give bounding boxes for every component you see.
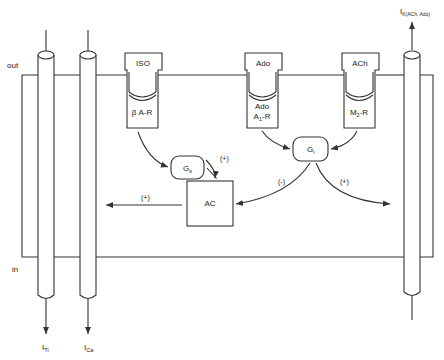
beta-adrenergic-receptor: ISO β A-R (125, 53, 162, 128)
gs-protein: Gs (171, 156, 204, 179)
ica-current-label: ICa (84, 343, 94, 353)
beta-receptor-label: β A-R (132, 108, 153, 117)
gi-to-kach-effect: (+) (340, 178, 349, 186)
iso-ligand-label: ISO (136, 59, 150, 68)
ikach-current-label: IK(ACh, Ado) (400, 7, 430, 17)
ica-channel: ICa (80, 30, 96, 353)
muscarinic-m2-receptor: ACh M2-R (342, 53, 379, 128)
gi-to-ac-effect: (-) (278, 178, 285, 186)
inside-label: in (12, 265, 18, 274)
adenosine-a1-receptor: Ado Ado A1-R (245, 53, 282, 128)
ito-channel: ITi (38, 30, 54, 353)
ado-ligand-label: Ado (256, 59, 271, 68)
ac-label: AC (204, 199, 215, 208)
a1-receptor-line1: Ado (255, 102, 270, 111)
gs-to-ac-effect: (+) (220, 155, 229, 163)
signaling-diagram: out in ISO β A-R Ado Ado A1-R ACh M2-R (0, 0, 444, 360)
ikach-channel: IK(ACh, Ado) (400, 7, 430, 320)
m2-receptor-label: M2-R (350, 108, 368, 118)
ac-to-channels-effect: (+) (141, 194, 150, 202)
a1-receptor-label: A1-R (254, 112, 271, 122)
ach-ligand-label: ACh (352, 59, 368, 68)
gi-protein: Gi (293, 137, 328, 161)
outside-label: out (7, 61, 19, 70)
adenylyl-cyclase: AC (187, 181, 233, 226)
ito-current-label: ITi (42, 343, 49, 353)
